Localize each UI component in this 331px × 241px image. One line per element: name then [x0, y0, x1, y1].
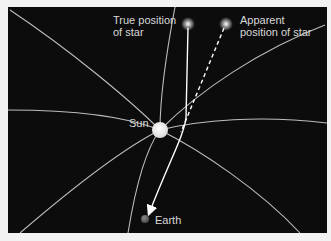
light-paths — [150, 28, 224, 211]
true-star-label: True position of star — [113, 14, 176, 38]
apparent-star-label: Apparent position of star — [240, 14, 312, 38]
sun-label: Sun — [129, 117, 149, 129]
true-star-icon — [181, 17, 195, 31]
apparent-star-icon — [219, 17, 233, 31]
field-lines — [8, 7, 327, 233]
earth-label: Earth — [155, 214, 181, 226]
sun-icon — [152, 122, 168, 138]
actual-light-path — [150, 28, 188, 211]
earth-icon — [141, 215, 149, 223]
